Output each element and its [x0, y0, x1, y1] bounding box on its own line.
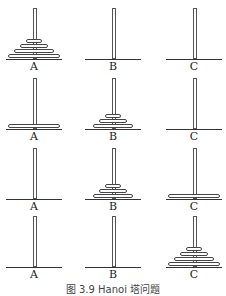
peg-b: B: [83, 142, 143, 210]
peg-pole: [193, 78, 197, 129]
peg-a: A: [4, 210, 64, 278]
peg-pole: [33, 216, 37, 267]
figure-caption: 图 3.9 Hanoi 塔问题: [0, 281, 226, 296]
peg-b: B: [83, 210, 143, 278]
peg-b: B: [83, 2, 143, 70]
peg-pole: [33, 148, 37, 199]
peg-label: C: [184, 268, 204, 281]
peg-c: C: [164, 2, 224, 70]
disk-1: [105, 114, 121, 118]
stage-1: ABC: [0, 2, 226, 70]
peg-pole: [112, 8, 116, 59]
peg-pole: [193, 8, 197, 59]
peg-pole: [33, 78, 37, 129]
peg-label: B: [103, 268, 123, 281]
disk-2: [99, 119, 127, 123]
peg-c: C: [164, 210, 224, 278]
peg-label: A: [24, 268, 44, 281]
peg-c: C: [164, 142, 224, 210]
disk-4: [168, 262, 220, 266]
peg-b: B: [83, 72, 143, 140]
peg-a: A: [4, 2, 64, 70]
peg-c: C: [164, 72, 224, 140]
stage-2: ABC: [0, 72, 226, 140]
disk-4: [8, 124, 60, 128]
disk-3: [93, 194, 133, 198]
disk-2: [20, 44, 48, 48]
disk-2: [180, 252, 208, 256]
disk-4: [168, 194, 220, 198]
peg-pole: [193, 148, 197, 199]
disk-3: [93, 124, 133, 128]
stage-4: ABC: [0, 210, 226, 278]
disk-3: [14, 49, 54, 53]
stage-3: ABC: [0, 142, 226, 210]
peg-pole: [112, 216, 116, 267]
disk-1: [26, 39, 42, 43]
disk-1: [105, 184, 121, 188]
disk-2: [99, 189, 127, 193]
disk-4: [8, 54, 60, 58]
peg-a: A: [4, 72, 64, 140]
peg-a: A: [4, 142, 64, 210]
disk-1: [186, 247, 202, 251]
disk-3: [174, 257, 214, 261]
